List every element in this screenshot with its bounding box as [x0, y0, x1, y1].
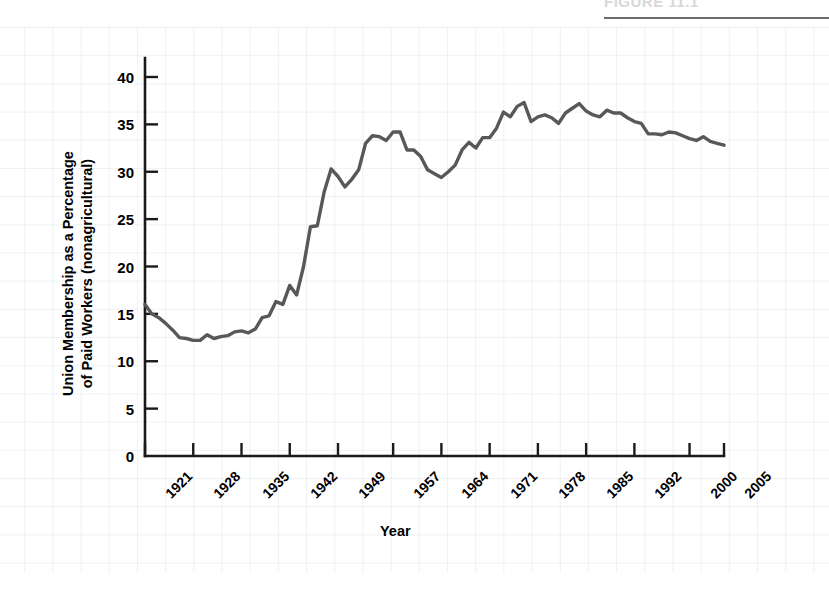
plot-area — [0, 0, 740, 595]
x-axis-tick-marks — [145, 443, 724, 456]
line-chart: Union Membership as a Percentage of Paid… — [0, 0, 740, 595]
y-axis-tick-marks — [145, 77, 158, 409]
source-note-container: SOURCES: Statistics Canada, Historical S… — [760, 10, 820, 570]
axis-lines — [145, 58, 724, 456]
union-membership-line — [145, 103, 724, 341]
